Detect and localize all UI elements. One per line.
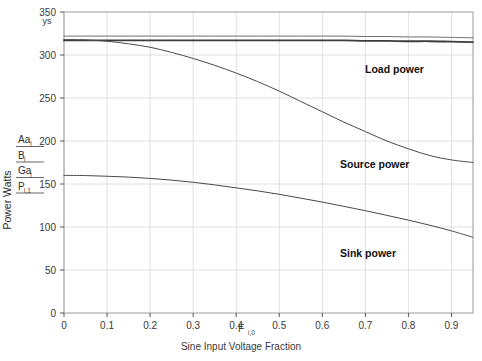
y-axis-title-text: Power Watts xyxy=(1,170,13,229)
x-axis-symbol: F xyxy=(238,323,244,334)
x-tick-label: 0.5 xyxy=(272,320,286,331)
x-tick-label: 0.7 xyxy=(358,320,372,331)
power-vs-voltage-fraction-chart: 00.10.20.30.40.50.60.70.80.9 05010015020… xyxy=(0,0,482,361)
x-axis-symbol-subscript: i,0 xyxy=(248,329,255,336)
x-tick-label: 0.8 xyxy=(401,320,415,331)
chart-container: 00.10.20.30.40.50.60.70.80.9 05010015020… xyxy=(0,0,482,361)
y-tick-label: 150 xyxy=(39,179,56,190)
y-tick-label: 50 xyxy=(45,265,57,276)
chart-background xyxy=(0,0,482,361)
y-tick-label: 200 xyxy=(39,136,56,147)
x-tick-label: 0.9 xyxy=(445,320,459,331)
y-tick-label: 300 xyxy=(39,50,56,61)
x-tick-label: 0.3 xyxy=(186,320,200,331)
y-tick-label: 0 xyxy=(50,308,56,319)
y-tick-label: 100 xyxy=(39,222,56,233)
annotation-source-power: Source power xyxy=(340,158,409,170)
annotation-sink-power: Sink power xyxy=(340,247,396,259)
annotation-load-power: Load power xyxy=(365,63,424,75)
y-axis-title: Power Watts xyxy=(1,170,13,229)
y-axis-top-symbol: ys xyxy=(43,16,53,26)
y-tick-label: 250 xyxy=(39,93,56,104)
x-tick-label: 0.6 xyxy=(315,320,329,331)
x-tick-label: 0 xyxy=(61,320,67,331)
x-axis-title-text: Sine Input Voltage Fraction xyxy=(181,341,301,352)
legend-symbol-aa: Aa xyxy=(18,134,31,145)
x-tick-label: 0.2 xyxy=(143,320,157,331)
x-tick-label: 0.1 xyxy=(100,320,114,331)
